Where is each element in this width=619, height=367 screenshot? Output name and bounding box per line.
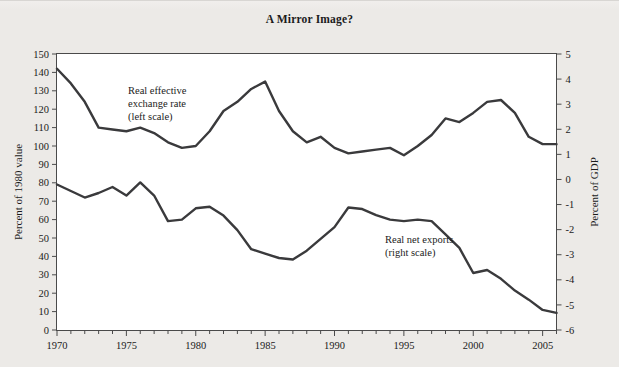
x-tick-label: 2005 bbox=[532, 340, 553, 351]
left-tick-label: 60 bbox=[39, 214, 50, 225]
left-tick-label: 90 bbox=[39, 159, 50, 170]
annotation-net-exports-line2: (right scale) bbox=[385, 247, 436, 259]
left-tick-label: 50 bbox=[39, 233, 50, 244]
right-tick-label: 5 bbox=[566, 49, 571, 60]
right-tick-label: -1 bbox=[566, 199, 575, 210]
left-tick-label: 30 bbox=[39, 269, 50, 280]
x-tick-label: 1970 bbox=[47, 340, 68, 351]
right-tick-label: 0 bbox=[566, 174, 571, 185]
left-tick-label: 130 bbox=[33, 85, 49, 96]
left-tick-label: 0 bbox=[44, 325, 49, 336]
right-tick-label: 4 bbox=[566, 74, 572, 85]
chart-svg: 0102030405060708090100110120130140150 -6… bbox=[0, 0, 619, 367]
right-tick-label: 2 bbox=[566, 124, 571, 135]
left-axis-title: Percent of 1980 value bbox=[12, 144, 24, 240]
right-axis: -6-5-4-3-2-1012345 bbox=[557, 49, 575, 336]
x-tick-label: 2000 bbox=[463, 340, 484, 351]
chart-figure: 0102030405060708090100110120130140150 -6… bbox=[0, 0, 619, 367]
left-tick-label: 100 bbox=[33, 141, 49, 152]
right-tick-label: -4 bbox=[566, 274, 575, 285]
right-tick-label: -5 bbox=[566, 300, 575, 311]
left-axis: 0102030405060708090100110120130140150 bbox=[33, 49, 57, 336]
left-tick-label: 150 bbox=[33, 49, 49, 60]
annotation-exchange-rate-line1: Real effective bbox=[128, 85, 187, 96]
x-tick-label: 1990 bbox=[324, 340, 345, 351]
right-tick-label: 1 bbox=[566, 149, 571, 160]
left-tick-label: 80 bbox=[39, 177, 50, 188]
x-tick-label: 1995 bbox=[393, 340, 414, 351]
annotation-exchange-rate-line2: exchange rate bbox=[128, 98, 186, 109]
right-tick-label: -6 bbox=[566, 325, 575, 336]
right-tick-label: -3 bbox=[566, 249, 575, 260]
left-tick-label: 10 bbox=[39, 306, 50, 317]
x-tick-label: 1985 bbox=[255, 340, 276, 351]
annotation-net-exports-line1: Real net exports bbox=[385, 234, 453, 245]
right-tick-label: -2 bbox=[566, 224, 575, 235]
x-tick-label: 1980 bbox=[185, 340, 206, 351]
right-axis-title: Percent of GDP bbox=[588, 157, 600, 227]
annotation-exchange-rate-line3: (left scale) bbox=[128, 111, 173, 123]
bottom-axis: 19701975198019851990199520002005 bbox=[47, 330, 557, 351]
left-tick-label: 20 bbox=[39, 288, 50, 299]
left-tick-label: 70 bbox=[39, 196, 50, 207]
left-tick-label: 120 bbox=[33, 104, 49, 115]
left-tick-label: 40 bbox=[39, 251, 50, 262]
left-tick-label: 110 bbox=[34, 122, 49, 133]
x-tick-label: 1975 bbox=[116, 340, 137, 351]
left-tick-label: 140 bbox=[33, 67, 49, 78]
right-tick-label: 3 bbox=[566, 99, 571, 110]
